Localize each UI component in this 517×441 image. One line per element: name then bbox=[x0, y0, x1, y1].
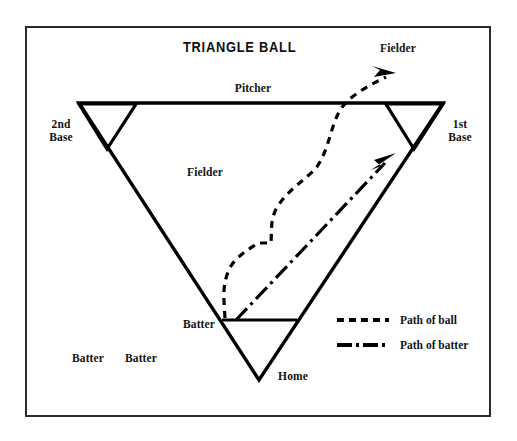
diagram-title: TRIANGLE BALL bbox=[183, 39, 296, 55]
diagram-title-wrapper: TRIANGLE BALL bbox=[120, 38, 360, 56]
label-second-base: 2nd Base bbox=[36, 118, 86, 144]
legend-label-path-of-batter: Path of batter bbox=[400, 339, 468, 351]
label-second-base-line2: Base bbox=[36, 131, 86, 144]
legend-label-path-of-ball: Path of ball bbox=[400, 314, 457, 326]
label-fielder-center: Fielder bbox=[175, 166, 235, 179]
label-pitcher: Pitcher bbox=[223, 82, 283, 95]
label-home: Home bbox=[266, 370, 320, 383]
label-fielder-top-right: Fielder bbox=[368, 42, 428, 55]
label-batter-infield: Batter bbox=[172, 318, 226, 331]
diagram-page: TRIANGLE BALL Fielder Pitcher 2nd Base 1… bbox=[0, 0, 517, 441]
label-first-base-line1: 1st bbox=[440, 118, 480, 131]
label-batter-left-1: Batter bbox=[61, 352, 115, 365]
label-batter-left-2: Batter bbox=[114, 352, 168, 365]
label-first-base-line2: Base bbox=[440, 131, 480, 144]
label-second-base-line1: 2nd bbox=[36, 118, 86, 131]
label-first-base: 1st Base bbox=[440, 118, 480, 144]
